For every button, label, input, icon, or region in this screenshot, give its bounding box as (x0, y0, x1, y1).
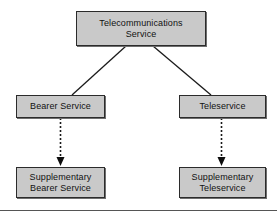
telecommunications-service-hierarchy-diagram: Telecommunications Service Bearer Servic… (0, 0, 277, 215)
node-supplementary-bearer-service: Supplementary Bearer Service (16, 167, 105, 198)
node-telecommunications-service: Telecommunications Service (76, 11, 206, 46)
bottom-divider-rule (0, 210, 277, 211)
node-bearer-service: Bearer Service (16, 95, 105, 118)
node-teleservice: Teleservice (179, 95, 266, 118)
node-supplementary-teleservice: Supplementary Teleservice (179, 167, 266, 198)
edge-telecom-to-bearer (72, 46, 126, 95)
edge-telecom-to-teleservice (153, 46, 211, 95)
arrowhead-bearer-icon (57, 157, 65, 166)
arrowhead-teleservice-icon (218, 157, 226, 166)
